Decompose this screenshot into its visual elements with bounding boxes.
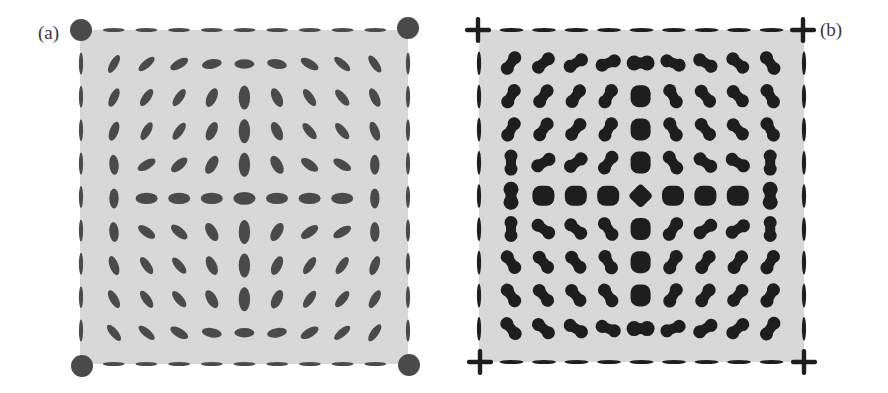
ellipse-glyph (234, 59, 254, 68)
ellipse-glyph (239, 153, 250, 177)
ellipse-glyph (239, 86, 250, 110)
dumbbell-glyph (631, 152, 651, 174)
corner-dot-icon (398, 354, 420, 376)
border-dash (332, 362, 354, 366)
border-dash (597, 360, 621, 364)
dumbbell-glyph (627, 56, 655, 71)
ellipse-glyph (370, 155, 379, 175)
border-dash (565, 360, 589, 364)
border-dash (760, 360, 784, 364)
dumbbell-glyph (764, 150, 777, 176)
corner-dot-icon (71, 355, 93, 377)
ellipse-glyph (239, 254, 250, 278)
border-dash (802, 184, 806, 208)
border-dash (477, 151, 481, 175)
border-dash (299, 362, 321, 366)
ellipse-glyph (370, 222, 379, 242)
border-dash (695, 360, 719, 364)
ellipse-glyph (136, 193, 158, 204)
border-dash (477, 284, 481, 308)
border-dash (234, 362, 256, 366)
border-dash (532, 360, 556, 364)
border-dash (299, 28, 321, 32)
border-dash (760, 28, 784, 32)
dumbbell-glyph (763, 182, 778, 210)
border-dash (79, 219, 83, 241)
border-dash (500, 360, 524, 364)
dumbbell-glyph (627, 321, 655, 336)
panel-a-label: (a) (38, 22, 59, 44)
panel-b-label: (b) (820, 19, 842, 41)
border-dash (406, 86, 410, 108)
border-dash (168, 28, 190, 32)
border-dash (406, 253, 410, 275)
border-dash (477, 184, 481, 208)
dumbbell-glyph (505, 150, 518, 176)
border-dash (201, 28, 223, 32)
border-dash (406, 119, 410, 141)
border-dash (802, 118, 806, 142)
ellipse-glyph (239, 220, 250, 244)
border-dash (630, 360, 654, 364)
border-dash (79, 52, 83, 74)
border-dash (500, 28, 524, 32)
border-dash (406, 219, 410, 241)
border-dash (79, 253, 83, 275)
ellipse-glyph (239, 287, 250, 311)
border-dash (802, 284, 806, 308)
border-dash (477, 51, 481, 75)
border-dash (477, 317, 481, 341)
ellipse-glyph (234, 328, 254, 337)
border-dash (662, 28, 686, 32)
border-dash (802, 250, 806, 274)
dumbbell-glyph (694, 186, 716, 206)
border-dash (406, 320, 410, 342)
border-dash (406, 186, 410, 208)
corner-dot-icon (397, 17, 419, 39)
border-dash (662, 360, 686, 364)
dumbbell-glyph (532, 186, 554, 206)
ellipse-glyph (266, 193, 288, 204)
border-dash (695, 28, 719, 32)
border-dash (103, 362, 125, 366)
border-dash (332, 28, 354, 32)
dumbbell-glyph (764, 216, 777, 242)
border-dash (79, 320, 83, 342)
dumbbell-glyph (565, 186, 587, 206)
border-dash (79, 119, 83, 141)
border-dash (266, 362, 288, 366)
border-dash (406, 286, 410, 308)
panel-b (465, 17, 817, 375)
border-dash (477, 84, 481, 108)
border-dash (532, 28, 556, 32)
dumbbell-glyph (631, 251, 651, 273)
border-dash (79, 286, 83, 308)
dumbbell-glyph (662, 186, 684, 206)
border-dash (364, 362, 386, 366)
dumbbell-glyph (504, 182, 519, 210)
ellipse-glyph (168, 193, 190, 204)
border-dash (802, 51, 806, 75)
border-dash (234, 28, 256, 32)
border-dash (168, 362, 190, 366)
corner-dot-icon (70, 19, 92, 41)
border-dash (597, 28, 621, 32)
panel-a-ellipse-grid (105, 53, 384, 343)
border-dash (266, 28, 288, 32)
border-dash (79, 153, 83, 175)
ellipse-glyph (109, 188, 118, 208)
dumbbell-glyph (631, 118, 651, 140)
ellipse-glyph (233, 192, 255, 205)
border-dash (201, 362, 223, 366)
border-dash (802, 317, 806, 341)
border-dash (727, 360, 751, 364)
border-dash (477, 118, 481, 142)
panel-b-dumbbell-grid (498, 49, 783, 343)
panel-a (70, 17, 420, 377)
border-dash (364, 28, 386, 32)
ellipse-glyph (370, 188, 379, 208)
ellipse-glyph (331, 193, 353, 204)
border-dash (79, 86, 83, 108)
border-dash (802, 151, 806, 175)
border-dash (477, 250, 481, 274)
